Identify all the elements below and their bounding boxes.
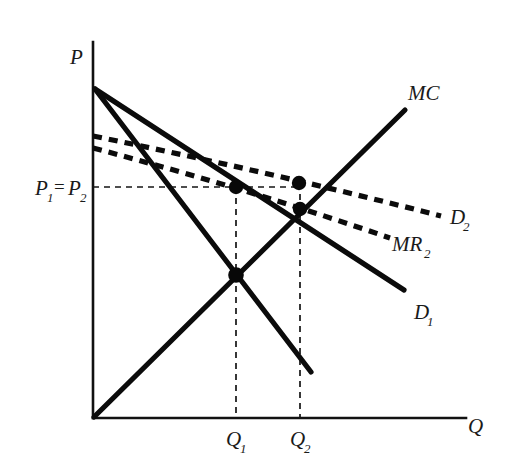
x-axis-label: Q [468, 414, 483, 438]
curve-label-d1: D 1 [413, 300, 434, 329]
price-label-p2-base: P [67, 176, 81, 200]
d1-label-sub: 1 [427, 314, 434, 329]
economics-diagram: P Q P 1 = P 2 Q 1 Q 2 MC D 2 MR 2 [0, 0, 506, 471]
quantity-label-q1: Q 1 [226, 427, 247, 456]
curve-label-mr2: MR 2 [391, 232, 431, 261]
point-d2-at-q2 [292, 176, 306, 190]
curve-label-mc: MC [407, 81, 440, 105]
q1-base: Q [226, 427, 241, 451]
point-mc-mr2-intersection [293, 202, 307, 216]
point-d1-at-price [229, 180, 243, 194]
price-label-p1-base: P [34, 176, 48, 200]
curve-label-d2: D 2 [449, 205, 470, 234]
curve-d2 [93, 136, 441, 216]
curve-mr1 [95, 89, 311, 372]
price-label-equals: = [54, 176, 65, 197]
diagram-canvas: P Q P 1 = P 2 Q 1 Q 2 MC D 2 MR 2 [0, 0, 506, 471]
d2-label-sub: 2 [463, 219, 470, 234]
q1-sub: 1 [240, 441, 247, 456]
mc-label-base: MC [407, 81, 440, 105]
y-axis-label: P [69, 45, 83, 69]
q2-sub: 2 [304, 441, 311, 456]
price-label-p1-sub: 1 [47, 190, 54, 205]
curve-mc [94, 110, 405, 417]
mr2-label-sub: 2 [424, 246, 431, 261]
price-label-p2-sub: 2 [80, 190, 87, 205]
price-axis-label: P 1 = P 2 [34, 176, 87, 205]
marked-points-group [228, 176, 307, 283]
q2-base: Q [290, 427, 305, 451]
mr2-label-base: MR [391, 232, 422, 256]
point-mc-mr1-intersection [228, 267, 244, 283]
quantity-label-q2: Q 2 [290, 427, 311, 456]
solid-curves-group [94, 89, 405, 417]
